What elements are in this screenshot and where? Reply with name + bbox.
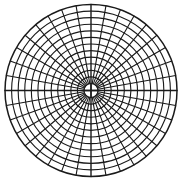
rings	[5, 5, 177, 177]
polar-grid-diagram	[0, 0, 182, 184]
